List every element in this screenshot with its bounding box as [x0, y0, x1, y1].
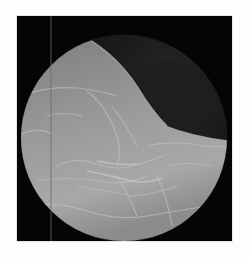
image-frame — [17, 16, 232, 241]
tissue-region — [17, 16, 232, 241]
medical-image — [17, 16, 232, 241]
